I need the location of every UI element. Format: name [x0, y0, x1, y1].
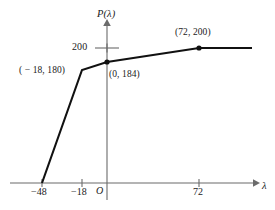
piecewise-curve [42, 48, 252, 183]
y-axis-arrowhead [103, 19, 111, 26]
x-tick-label-72: 72 [193, 187, 203, 197]
x-axis-label: λ [262, 181, 267, 192]
plot-canvas [0, 0, 275, 210]
piecewise-linear-plot-figure: P(λ) λ O 200 −48 −18 72 ( − 18, 180) (0,… [0, 0, 275, 210]
x-axis-arrowhead [253, 179, 260, 187]
data-point-marker-0-184 [104, 59, 109, 64]
point-annotation-0-184: (0, 184) [109, 70, 140, 80]
y-axis-label: P(λ) [97, 9, 115, 20]
y-tick-label-200: 200 [72, 42, 87, 52]
data-point-marker-72-200 [196, 45, 201, 50]
x-tick-label-neg18: −18 [71, 187, 87, 197]
x-axis [10, 179, 260, 187]
point-annotation-72-200: (72, 200) [175, 28, 211, 38]
origin-label: O [96, 186, 103, 196]
x-tick-label-neg48: −48 [31, 187, 47, 197]
point-annotation-neg18-180: ( − 18, 180) [19, 66, 65, 76]
